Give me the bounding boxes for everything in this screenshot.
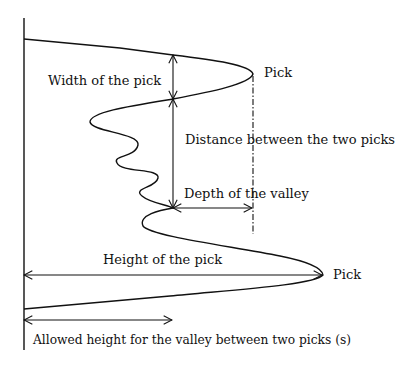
label-pick-bottom: Pick [333,267,361,282]
label-allowed-height: Allowed height for the valley between tw… [32,332,351,347]
label-depth-of-valley: Depth of the valley [184,186,309,201]
label-distance-between-picks: Distance between the two picks [185,132,395,147]
label-height-of-pick: Height of the pick [103,252,222,267]
peak-parameters-diagram: Pick Width of the pick Distance between … [0,0,398,371]
label-width-of-pick: Width of the pick [48,73,161,88]
label-pick-top: Pick [264,65,292,80]
